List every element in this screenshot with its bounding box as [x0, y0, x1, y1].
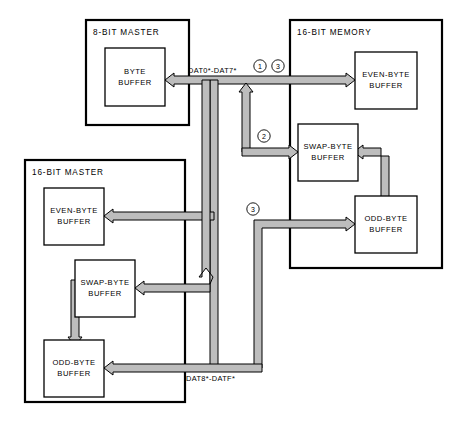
buffer-label-memory-even-line1: EVEN-BYTE	[362, 70, 410, 79]
buffer-label-master16-swap-line2: BUFFER	[88, 289, 121, 298]
buffer-box-8bit-byte	[105, 48, 165, 106]
bus-to-master16-even	[104, 209, 214, 223]
path-marker-3b-text: 3	[251, 206, 255, 213]
path-marker-1: 1	[254, 60, 266, 72]
buffer-label-memory-odd-line1: ODD-BYTE	[364, 214, 407, 223]
buffer-label-master16-odd-line2: BUFFER	[57, 369, 90, 378]
buffer-label-master16-even-line2: BUFFER	[57, 217, 90, 226]
bus-label-high-byte: DAT8*-DATF*	[186, 374, 235, 383]
bus-high-byte-main	[104, 361, 262, 375]
path-marker-3b: 3	[247, 203, 259, 215]
path-marker-3a: 3	[272, 60, 284, 72]
buffer-label-master16-odd-line1: ODD-BYTE	[52, 358, 95, 367]
bus-master16-swap-feed-horizontal	[135, 281, 210, 295]
container-title-8-bit-master: 8-BIT MASTER	[93, 28, 159, 37]
container-title-16-bit-memory: 16-BIT MEMORY	[297, 28, 371, 37]
buffer-label-memory-odd-line2: BUFFER	[369, 225, 402, 234]
bus-branch-2-vertical	[239, 83, 253, 152]
bus-low-byte-main	[165, 73, 355, 87]
path-marker-2: 2	[258, 130, 270, 142]
bus-low-byte-vertical-trunk	[210, 80, 218, 368]
buffer-label-memory-even-line2: BUFFER	[369, 81, 402, 90]
diagram-canvas: 8-BIT MASTER 16-BIT MEMORY 16-BIT MASTER…	[0, 0, 462, 427]
byte-routing-diagram: 8-BIT MASTER 16-BIT MEMORY 16-BIT MASTER…	[0, 0, 462, 427]
buffer-label-master16-swap-line1: SWAP-BYTE	[81, 278, 130, 287]
buffer-label-memory-swap-line1: SWAP-BYTE	[304, 142, 353, 151]
buffer-label-8bit-byte-line1: BYTE	[124, 67, 146, 76]
path-marker-1-text: 1	[258, 63, 262, 70]
bus-label-low-byte: DAT0*-DAT7*	[188, 66, 237, 75]
buffer-label-memory-swap-line2: BUFFER	[311, 153, 344, 162]
container-title-16-bit-master: 16-BIT MASTER	[32, 168, 104, 177]
buffer-label-master16-even-line1: EVEN-BYTE	[50, 206, 98, 215]
buffer-label-8bit-byte-line2: BUFFER	[118, 78, 151, 87]
path-marker-3a-text: 3	[276, 63, 280, 70]
bus-branch-3-to-memory-odd	[254, 217, 355, 368]
path-marker-2-text: 2	[262, 133, 266, 140]
